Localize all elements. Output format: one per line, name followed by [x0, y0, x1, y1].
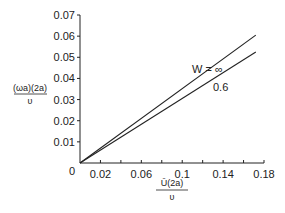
- axes: [80, 15, 264, 163]
- tick-labels: 0.020.060.10.140.180.010.020.030.040.050…: [54, 9, 275, 180]
- chart: 0.020.060.10.140.180.010.020.030.040.050…: [0, 0, 285, 213]
- x-axis-label: Ū(2a) υ: [156, 178, 188, 202]
- y-tick-label: 0.01: [54, 136, 75, 148]
- svg-text:Ū(2a): Ū(2a): [161, 178, 184, 188]
- y-tick-label: 0.06: [54, 30, 75, 42]
- svg-text:(ωa)(2a): (ωa)(2a): [13, 83, 47, 93]
- y-tick-label: 0.07: [54, 9, 75, 21]
- series-label-w-infinity: W = ∞: [192, 63, 223, 75]
- svg-text:υ: υ: [170, 192, 175, 202]
- y-tick-label: 0.03: [54, 94, 75, 106]
- x-tick-label: 0.06: [131, 168, 152, 180]
- x-tick-label: 0.18: [253, 168, 274, 180]
- y-axis-label: (ωa)(2a) υ: [13, 83, 47, 106]
- y-tick-label: 0.05: [54, 51, 75, 63]
- x-tick-label: 0.02: [90, 168, 111, 180]
- x-tick-label: 0.14: [212, 168, 233, 180]
- ticks: [77, 15, 264, 163]
- y-tick-label: 0.04: [54, 72, 75, 84]
- svg-text:υ: υ: [28, 96, 33, 106]
- series-label-0-6: 0.6: [213, 81, 228, 93]
- origin-label: 0: [69, 165, 75, 177]
- series: [80, 35, 256, 163]
- y-tick-label: 0.02: [54, 115, 75, 127]
- series-line-1: [80, 52, 256, 163]
- series-line-0: [80, 35, 256, 163]
